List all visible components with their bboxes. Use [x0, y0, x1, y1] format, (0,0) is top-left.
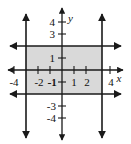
y-tick-label-3: 3 [50, 28, 56, 40]
y-tick-label-1: 1 [50, 52, 56, 64]
x-tick-label-2: 2 [84, 76, 90, 88]
coordinate-plane-figure: -4 -2 -1 1 2 4 4 3 1 -1 -3 -4 y x [0, 0, 131, 144]
x-tick-label--4: -4 [9, 76, 19, 88]
y-tick-label--4: -4 [47, 112, 57, 124]
coordinate-plane-svg: -4 -2 -1 1 2 4 4 3 1 -1 -3 -4 y x [0, 0, 131, 144]
y-tick-label-4: 4 [50, 16, 56, 28]
x-tick-label--2: -2 [34, 76, 43, 88]
x-tick-label-4: 4 [108, 76, 114, 88]
y-tick-label--1: -1 [48, 76, 57, 88]
y-tick-label--3: -3 [47, 100, 57, 112]
x-axis-label: x [116, 72, 122, 84]
y-axis-label: y [67, 12, 73, 24]
x-tick-label-1: 1 [71, 76, 77, 88]
